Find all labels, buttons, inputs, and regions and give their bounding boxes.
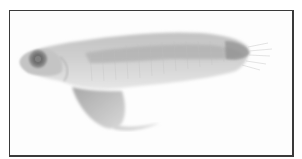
fish-specimen-image: [10, 11, 292, 155]
yolk-sac: [72, 87, 125, 129]
photo-frame: [9, 10, 294, 157]
